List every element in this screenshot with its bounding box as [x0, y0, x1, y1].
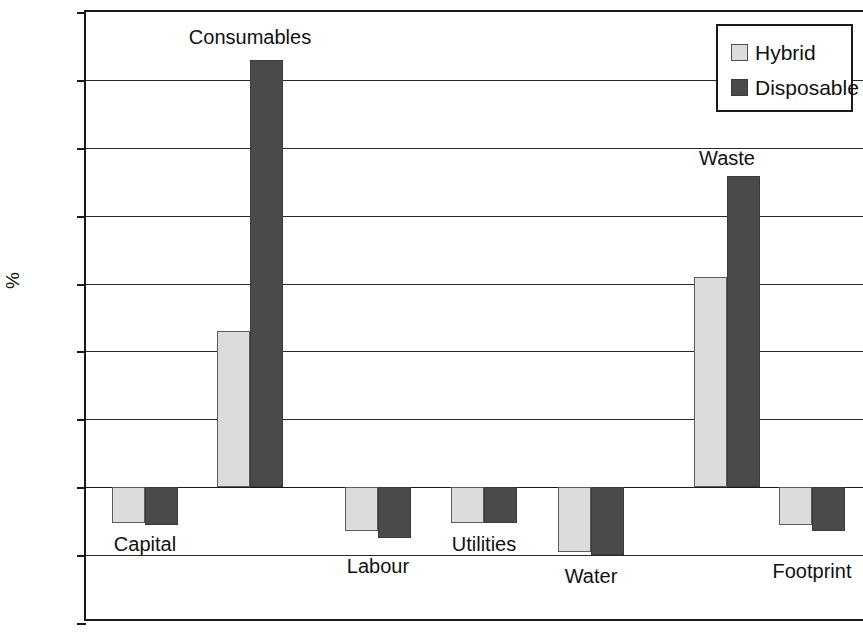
bar-consumables-hybrid — [217, 331, 250, 487]
bar-utilities-hybrid — [451, 487, 484, 522]
category-label-consumables: Consumables — [189, 26, 311, 49]
y-tick-mark-300 — [77, 284, 86, 286]
bar-waste-disposable — [727, 176, 760, 487]
y-tick-mark--200 — [77, 623, 86, 625]
y-tick-mark-700 — [77, 12, 86, 14]
disposable-swatch-icon — [731, 79, 748, 96]
category-label-water: Water — [565, 565, 618, 588]
bar-capital-disposable — [145, 487, 178, 524]
category-label-labour: Labour — [347, 555, 409, 578]
legend-label-disposable: Disposable — [755, 76, 859, 100]
bar-utilities-disposable — [484, 487, 517, 522]
bar-labour-disposable — [378, 487, 411, 538]
category-label-waste: Waste — [699, 147, 755, 170]
legend: Hybrid Disposable — [716, 24, 853, 112]
y-tick-mark-100 — [77, 419, 86, 421]
y-tick-mark-400 — [77, 216, 86, 218]
y-tick-mark-600 — [77, 80, 86, 82]
bar-consumables-disposable — [250, 60, 283, 488]
legend-entry-hybrid: Hybrid — [731, 35, 851, 70]
category-label-capital: Capital — [114, 533, 176, 556]
bar-waste-hybrid — [694, 277, 727, 487]
y-tick-mark-200 — [77, 351, 86, 353]
legend-entry-disposable: Disposable — [731, 70, 851, 105]
legend-label-hybrid: Hybrid — [755, 41, 816, 65]
category-label-footprint: Footprint — [773, 560, 852, 583]
bar-chart: % 7006005004003002001000−100−200 Capital… — [0, 0, 863, 634]
bar-water-hybrid — [558, 487, 591, 552]
bar-capital-hybrid — [112, 487, 145, 522]
y-tick-mark-0 — [77, 487, 86, 489]
category-label-utilities: Utilities — [452, 533, 516, 556]
bar-water-disposable — [591, 487, 624, 555]
hybrid-swatch-icon — [731, 44, 748, 61]
y-tick-mark-500 — [77, 148, 86, 150]
y-tick-mark--100 — [77, 555, 86, 557]
bar-labour-hybrid — [345, 487, 378, 531]
bar-footprint-disposable — [812, 487, 845, 531]
y-axis-title: % — [2, 272, 24, 289]
bar-footprint-hybrid — [779, 487, 812, 524]
